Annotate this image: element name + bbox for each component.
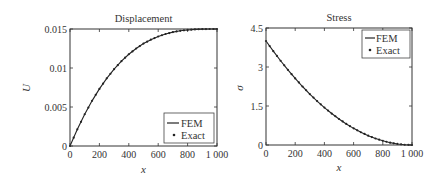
exact-dot bbox=[183, 29, 185, 31]
exact-dot bbox=[135, 47, 137, 49]
stress-y-label: σ bbox=[233, 85, 245, 91]
exact-dot bbox=[280, 60, 282, 62]
exact-dot bbox=[327, 109, 329, 111]
stress-legend: FEM Exact bbox=[362, 30, 410, 58]
exact-dot bbox=[323, 106, 325, 108]
exact-dot bbox=[172, 31, 174, 33]
exact-dot bbox=[309, 93, 311, 95]
exact-dot bbox=[109, 73, 111, 75]
y-tick-label: 0.01 bbox=[50, 63, 68, 74]
exact-dot bbox=[84, 113, 86, 115]
exact-dot bbox=[80, 121, 82, 123]
exact-dot bbox=[385, 141, 387, 143]
exact-dot bbox=[342, 120, 344, 122]
exact-dot bbox=[349, 125, 351, 127]
exact-dot bbox=[389, 142, 391, 144]
exact-dot bbox=[146, 41, 148, 43]
exact-dot bbox=[142, 42, 144, 44]
x-tick-label: 600 bbox=[151, 149, 166, 160]
stress-x-label: x bbox=[336, 161, 342, 173]
exact-dot bbox=[76, 128, 78, 130]
exact-dot bbox=[164, 33, 166, 35]
exact-dot bbox=[301, 85, 303, 87]
exact-dot bbox=[168, 32, 170, 34]
exact-dot bbox=[393, 142, 395, 144]
legend-fem-label: FEM bbox=[376, 33, 398, 44]
exact-dot bbox=[139, 45, 141, 47]
x-tick-label: 1 000 bbox=[206, 149, 229, 160]
exact-dot bbox=[290, 73, 292, 75]
y-tick-label: 0 bbox=[258, 140, 263, 151]
exact-dot bbox=[283, 64, 285, 66]
x-tick-label: 600 bbox=[346, 148, 361, 159]
exact-dot bbox=[353, 127, 355, 129]
exact-dot bbox=[334, 115, 336, 117]
legend-exact-label: Exact bbox=[181, 130, 205, 141]
legend-fem-label: FEM bbox=[181, 118, 203, 129]
y-tick-label: 3 bbox=[258, 62, 263, 73]
x-tick-label: 200 bbox=[92, 149, 107, 160]
x-tick-label: 0 bbox=[68, 149, 73, 160]
exact-dot bbox=[87, 106, 89, 108]
exact-dot bbox=[102, 83, 104, 85]
y-tick-label: 4.5 bbox=[251, 23, 264, 34]
y-tick-label: 0.015 bbox=[45, 24, 68, 35]
exact-dot bbox=[95, 94, 97, 96]
exact-dot bbox=[106, 77, 108, 79]
exact-dot bbox=[269, 45, 271, 47]
legend-exact-dot-icon bbox=[369, 49, 372, 52]
displacement-x-label: x bbox=[140, 163, 146, 175]
exact-dot bbox=[117, 64, 119, 66]
exact-dot bbox=[98, 88, 100, 90]
legend-exact-dot-icon bbox=[173, 134, 176, 137]
chart-canvas: Displacement 00.0050.010.015 02004006008… bbox=[0, 0, 444, 184]
x-tick-label: 400 bbox=[317, 148, 332, 159]
exact-dot bbox=[113, 68, 115, 70]
x-tick-label: 800 bbox=[375, 148, 390, 159]
exact-dot bbox=[175, 30, 177, 32]
exact-dot bbox=[320, 103, 322, 105]
y-tick-label: 1.5 bbox=[251, 101, 264, 112]
exact-dot bbox=[345, 123, 347, 125]
exact-dot bbox=[161, 34, 163, 36]
exact-dot bbox=[179, 30, 181, 32]
exact-dot bbox=[374, 137, 376, 139]
exact-dot bbox=[316, 100, 318, 102]
x-tick-label: 1 000 bbox=[401, 148, 424, 159]
exact-dot bbox=[305, 89, 307, 91]
stress-title: Stress bbox=[326, 12, 351, 23]
exact-dot bbox=[298, 81, 300, 83]
exact-dot bbox=[120, 60, 122, 62]
x-tick-label: 800 bbox=[180, 149, 195, 160]
exact-dot bbox=[131, 50, 133, 52]
exact-dot bbox=[356, 129, 358, 131]
displacement-plot: Displacement 00.0050.010.015 02004006008… bbox=[20, 13, 228, 175]
y-tick-label: 0 bbox=[62, 141, 67, 152]
y-tick-label: 0.005 bbox=[45, 102, 68, 113]
exact-dot bbox=[73, 137, 75, 139]
exact-dot bbox=[150, 39, 152, 41]
displacement-legend: FEM Exact bbox=[164, 113, 214, 143]
displacement-y-label: U bbox=[20, 83, 32, 92]
exact-dot bbox=[331, 112, 333, 114]
exact-dot bbox=[157, 35, 159, 37]
legend-exact-label: Exact bbox=[376, 45, 400, 56]
displacement-title: Displacement bbox=[115, 13, 173, 24]
exact-dot bbox=[287, 69, 289, 71]
exact-dot bbox=[312, 96, 314, 98]
exact-dot bbox=[153, 37, 155, 39]
exact-dot bbox=[91, 100, 93, 102]
x-tick-label: 0 bbox=[264, 148, 269, 159]
exact-dot bbox=[276, 55, 278, 57]
x-tick-label: 200 bbox=[288, 148, 303, 159]
exact-dot bbox=[360, 131, 362, 133]
exact-dot bbox=[124, 57, 126, 59]
exact-dot bbox=[128, 53, 130, 55]
exact-dot bbox=[363, 133, 365, 135]
stress-plot: Stress 01.534.5 02004006008001 000 σ x F… bbox=[233, 12, 423, 173]
exact-dot bbox=[272, 50, 274, 52]
x-tick-label: 400 bbox=[121, 149, 136, 160]
exact-dot bbox=[294, 77, 296, 79]
exact-dot bbox=[382, 140, 384, 142]
exact-dot bbox=[338, 118, 340, 120]
